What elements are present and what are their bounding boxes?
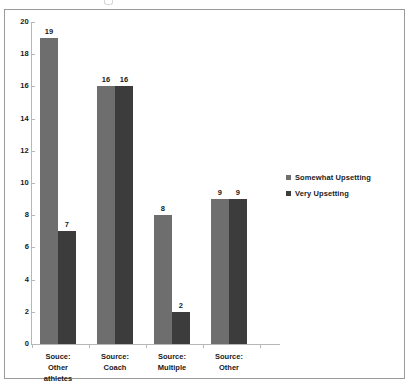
y-axis-tick-label: 16 bbox=[20, 81, 29, 90]
category-label-line: Other bbox=[28, 362, 88, 373]
legend-item-label: Very Upsetting bbox=[295, 189, 349, 198]
x-axis-category-label: Source:Multiple bbox=[142, 351, 202, 373]
y-axis-tick-label: 2 bbox=[25, 307, 29, 316]
bar bbox=[40, 38, 58, 344]
legend-swatch-icon bbox=[286, 175, 291, 180]
bar-value-label: 16 bbox=[97, 75, 115, 84]
legend-item[interactable]: Somewhat Upsetting bbox=[286, 171, 371, 184]
category-label-line: Other bbox=[199, 362, 259, 373]
plot-area bbox=[32, 22, 280, 344]
x-axis-tick-mark bbox=[203, 344, 204, 348]
cropped-title-artifact bbox=[104, 0, 113, 5]
y-axis-tick-label: 12 bbox=[20, 146, 29, 155]
y-axis-tick-label: 4 bbox=[25, 275, 29, 284]
category-label-line: Multiple bbox=[142, 362, 202, 373]
bar-chart: 20181614121086420 19716168299 Souce:Othe… bbox=[0, 0, 409, 388]
y-axis-tick-label: 8 bbox=[25, 210, 29, 219]
bar bbox=[97, 86, 115, 344]
x-axis-tick-mark bbox=[146, 344, 147, 348]
bar-value-label: 9 bbox=[229, 188, 247, 197]
x-axis-line bbox=[32, 344, 280, 345]
y-axis-tick-label: 6 bbox=[25, 242, 29, 251]
bar bbox=[229, 199, 247, 344]
bar-value-label: 9 bbox=[211, 188, 229, 197]
bar-value-label: 19 bbox=[40, 27, 58, 36]
category-label-line: Source: bbox=[142, 351, 202, 362]
legend-swatch-icon bbox=[286, 191, 291, 196]
category-label-line: Source: bbox=[199, 351, 259, 362]
y-axis-tick-label: 0 bbox=[25, 339, 29, 348]
bar-value-label: 8 bbox=[154, 204, 172, 213]
bar bbox=[211, 199, 229, 344]
bar-value-label: 16 bbox=[115, 75, 133, 84]
bar bbox=[58, 231, 76, 344]
x-axis-tick-mark bbox=[89, 344, 90, 348]
x-axis-tick-mark bbox=[32, 344, 33, 348]
y-axis-tick-label: 14 bbox=[20, 114, 29, 123]
category-label-line: Source: bbox=[85, 351, 145, 362]
bar bbox=[172, 312, 190, 344]
x-axis-tick-mark bbox=[260, 344, 261, 348]
category-label-line: athletes bbox=[28, 373, 88, 384]
chart-legend: Somewhat UpsettingVery Upsetting bbox=[286, 171, 371, 203]
bar-value-label: 2 bbox=[172, 301, 190, 310]
bar-value-label: 7 bbox=[58, 220, 76, 229]
bar bbox=[115, 86, 133, 344]
y-axis-tick-label: 10 bbox=[20, 178, 29, 187]
y-axis-tick-label: 18 bbox=[20, 49, 29, 58]
y-axis-tick-label: 20 bbox=[20, 17, 29, 26]
legend-item[interactable]: Very Upsetting bbox=[286, 187, 371, 200]
bar bbox=[154, 215, 172, 344]
x-axis-category-label: Source:Coach bbox=[85, 351, 145, 373]
category-label-line: Souce: bbox=[28, 351, 88, 362]
category-label-line: Coach bbox=[85, 362, 145, 373]
x-axis-category-label: Souce:Otherathletes bbox=[28, 351, 88, 384]
x-axis-category-label: Source:Other bbox=[199, 351, 259, 373]
legend-item-label: Somewhat Upsetting bbox=[295, 173, 371, 182]
